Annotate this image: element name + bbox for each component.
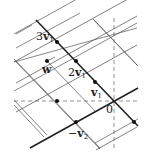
point-neg-v1 xyxy=(132,120,136,124)
label-3v1: 3v1 xyxy=(36,30,54,44)
point-v1 xyxy=(93,80,97,84)
label-w: w xyxy=(41,63,52,76)
label-zero: 0 xyxy=(106,103,113,116)
label-v1: v1 xyxy=(90,86,102,100)
point-3v1 xyxy=(55,40,59,44)
label-neg-v2: −v2 xyxy=(68,127,88,141)
lattice-grid xyxy=(16,2,138,113)
lattice-diagram: 3v1 2v1 v1 w 0 −v2 xyxy=(0,0,153,154)
grid-line-j1 xyxy=(93,19,137,65)
point-2v1 xyxy=(74,59,78,63)
point-neg-v2 xyxy=(74,120,78,124)
grid-line-k3 xyxy=(14,0,137,62)
lattice-points xyxy=(45,40,136,124)
point-v1-minus-v2 xyxy=(55,99,59,103)
grid-line-km1 xyxy=(96,127,137,150)
grid-line-jm2 xyxy=(14,100,47,135)
